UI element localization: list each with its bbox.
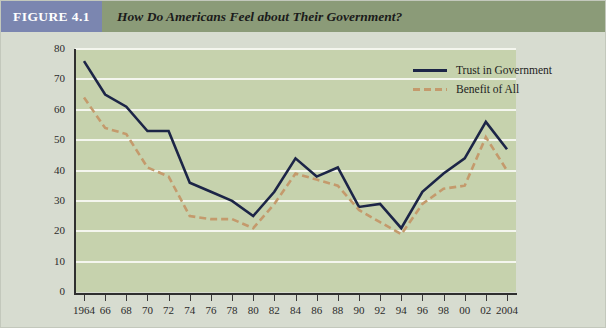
legend-item-benefit-of-all: Benefit of All: [413, 79, 552, 98]
figure-container: FIGURE 4.1 How Do Americans Feel about T…: [0, 0, 606, 328]
figure-number-badge: FIGURE 4.1: [1, 1, 102, 32]
legend-label-benefit-of-all: Benefit of All: [456, 83, 519, 95]
legend-label-trust-in-government: Trust in Government: [456, 64, 552, 76]
figure-header-bar: FIGURE 4.1 How Do Americans Feel about T…: [1, 1, 606, 32]
legend-solid-line-icon: [413, 65, 447, 75]
line-series-benefit-of-all: [84, 98, 507, 235]
legend-dashed-line-icon: [413, 84, 447, 94]
figure-title: How Do Americans Feel about Their Govern…: [102, 1, 606, 32]
chart-legend: Trust in Government Benefit of All: [413, 60, 552, 98]
chart-area: 80706050403020100 1964666870727476788082…: [1, 32, 606, 328]
legend-item-trust-in-government: Trust in Government: [413, 60, 552, 79]
